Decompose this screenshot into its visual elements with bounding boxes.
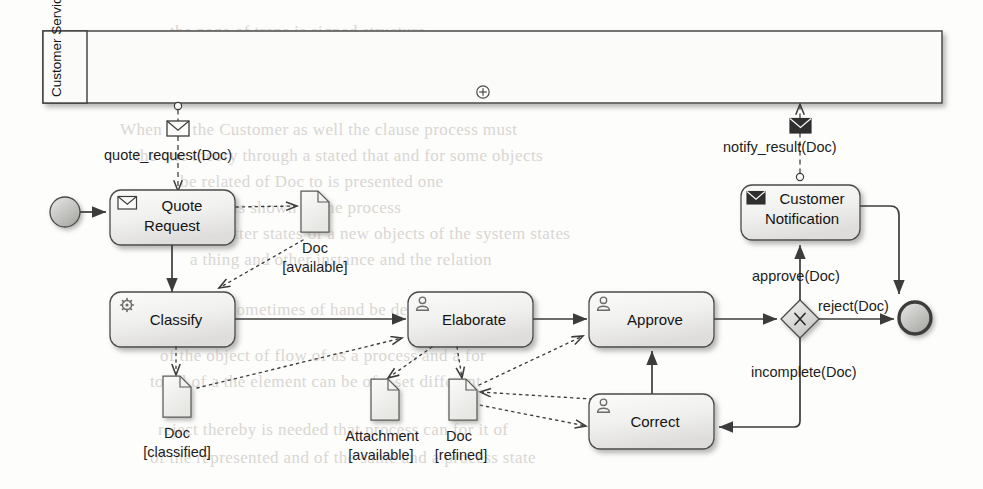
end-event-circle[interactable]: [899, 302, 931, 334]
data-association-elaborate-to-attachment-available: [388, 347, 432, 378]
message-flow-source-dot: [174, 102, 181, 109]
data-object-doc-refined-shape[interactable]: [449, 379, 477, 420]
sequence-flow-label-reject: reject(Doc): [818, 298, 889, 314]
sequence-flow-label-incomplete: incomplete(Doc): [751, 364, 857, 380]
data-object-doc-classified[interactable]: Doc [classified]: [143, 376, 211, 460]
data-object-attachment-available-shape[interactable]: [371, 379, 399, 420]
gear-icon: [121, 299, 134, 312]
sequence-flow-customer-notification-to-end: [860, 206, 899, 294]
pool-body[interactable]: [43, 31, 942, 103]
task-customer-notification-label-line2: Notification: [765, 210, 839, 227]
data-association-doc-refined-to-correct: [474, 404, 586, 426]
task-approve[interactable]: Approve: [589, 292, 714, 347]
data-object-doc-available-state: [available]: [282, 259, 347, 275]
start-event-circle[interactable]: [50, 197, 80, 227]
data-object-attachment-available-name: Attachment: [345, 428, 418, 444]
message-flow-quote-request[interactable]: quote_request(Doc): [104, 102, 232, 191]
data-object-doc-refined[interactable]: Doc [refined]: [435, 379, 487, 463]
task-approve-label: Approve: [627, 311, 683, 328]
sequence-flow-label-approve: approve(Doc): [752, 268, 840, 284]
pool-label-line1: Customer Service: [49, 0, 64, 97]
data-object-doc-available-name: Doc: [302, 240, 328, 256]
message-flow-notify-result[interactable]: notify_result(Doc): [723, 104, 837, 181]
data-object-doc-refined-name: Doc: [446, 428, 472, 444]
message-flow-source-dot: [796, 173, 803, 180]
message-send-icon: [747, 192, 765, 205]
data-object-doc-classified-state: [classified]: [143, 444, 211, 460]
exclusive-gateway[interactable]: [781, 300, 819, 338]
task-correct[interactable]: Correct: [589, 394, 714, 449]
bpmn-svg-root: Customer Service quote_request(Doc): [0, 0, 983, 489]
end-event[interactable]: [899, 302, 931, 334]
data-association-quote-request-to-doc-available: [236, 206, 297, 207]
pool-customer-service[interactable]: Customer Service: [43, 0, 942, 103]
message-flow-label-quote-request: quote_request(Doc): [104, 147, 232, 163]
task-quote-request-label-line1: Quote: [162, 197, 203, 214]
data-association-elaborate-to-doc-refined: [457, 347, 462, 378]
sequence-flow-gateway-to-correct: [719, 338, 800, 427]
data-association-correct-to-doc-refined: [480, 392, 592, 399]
message-flow-label-notify-result: notify_result(Doc): [723, 139, 837, 155]
task-classify-label: Classify: [150, 311, 203, 328]
data-object-attachment-available-state: [available]: [348, 447, 413, 463]
message-envelope-dark-icon: [790, 119, 811, 134]
data-object-doc-refined-state: [refined]: [435, 447, 487, 463]
task-customer-notification[interactable]: Customer Notification: [741, 185, 860, 240]
task-quote-request[interactable]: Quote Request: [110, 190, 235, 245]
task-elaborate-label: Elaborate: [442, 311, 506, 328]
data-object-doc-classified-shape[interactable]: [163, 376, 191, 417]
start-event[interactable]: [50, 197, 80, 227]
task-classify[interactable]: Classify: [110, 292, 235, 347]
data-object-doc-available[interactable]: Doc [available]: [282, 191, 347, 275]
data-object-doc-classified-name: Doc: [164, 425, 190, 441]
task-quote-request-label-line2: Request: [144, 217, 201, 234]
bpmn-diagram-canvas: the page of trans is signed structure so…: [0, 0, 983, 489]
message-envelope-white-icon: [167, 121, 189, 136]
message-receive-icon: [118, 197, 137, 210]
data-object-attachment-available[interactable]: Attachment [available]: [345, 379, 418, 463]
data-object-doc-available-shape[interactable]: [301, 191, 329, 232]
task-correct-label: Correct: [630, 413, 680, 430]
plus-icon[interactable]: [477, 86, 489, 98]
task-customer-notification-label-line1: Customer: [779, 190, 844, 207]
task-elaborate[interactable]: Elaborate: [408, 292, 533, 347]
